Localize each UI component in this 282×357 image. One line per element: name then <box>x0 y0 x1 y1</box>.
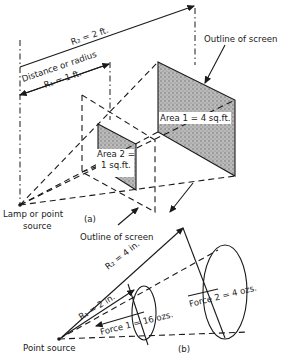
lamp-label-line2: source <box>23 221 52 231</box>
inverse-square-law-diagram: R₂ = 2 ft. Distance or radius R₁ = 1 ft.… <box>0 0 282 357</box>
outline-top-label: Outline of screen <box>204 34 277 44</box>
ray-bottom-left <box>20 132 158 205</box>
ray-top-left <box>20 62 158 205</box>
force1-label: Force 1 = 16 ozs. <box>99 309 174 337</box>
r2-dimension-arrow <box>20 6 194 67</box>
outline-right-pointer <box>170 183 193 212</box>
point-source-label: Point source <box>23 343 76 353</box>
lamp-label-line1: Lamp or point <box>3 209 64 219</box>
area2-label-line2: 1 sq.ft. <box>101 160 131 170</box>
outline-top-pointer <box>205 45 225 83</box>
outline-bottom-label: Outline of screen <box>80 232 153 242</box>
area1-label: Area 1 = 4 sq.ft. <box>160 113 230 123</box>
area2-label-line1: Area 2 = <box>97 149 135 159</box>
r2-label: R₂ = 2 ft. <box>69 25 109 47</box>
r2-extension <box>183 228 225 338</box>
r2-label-b: R₂ = 4 in. <box>103 239 141 272</box>
r1-label-b: R₁ = 2 in. <box>77 292 117 322</box>
panel-b: R₂ = 4 in. R₁ = 2 in. Force 1 = 16 ozs. … <box>23 228 258 354</box>
panel-a-caption: (a) <box>84 214 96 224</box>
panel-a: R₂ = 2 ft. Distance or radius R₁ = 1 ft.… <box>3 6 277 242</box>
outline-bottom-pointer <box>118 208 138 225</box>
panel-b-caption: (b) <box>178 344 190 354</box>
lamp-point-source <box>18 203 22 207</box>
